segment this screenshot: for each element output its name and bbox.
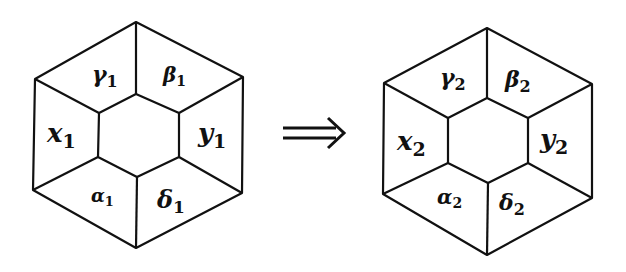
subscript: 1 [107,72,118,91]
subscript: 1 [176,73,186,89]
subscript: 1 [105,194,114,209]
region-label-delta: δ2 [498,189,525,219]
region-label-y: y1 [197,118,226,152]
subscript: 2 [452,195,462,211]
subscript: 1 [173,197,185,217]
subscript: 1 [213,130,226,152]
spoke-edge [528,163,592,198]
subscript: 2 [520,77,531,96]
region-label-alpha: α2 [437,185,462,211]
region-label-beta: β2 [504,66,531,96]
hexagon-transformation-diagram: γ1β1x1y1α1δ1 γ2β2x2y2α2δ2 [0,0,626,272]
symbol: β [162,63,176,87]
subscript: 2 [413,138,426,160]
symbol: x [396,126,413,156]
spoke-edge [33,157,98,190]
region-label-y: y2 [539,124,568,158]
spoke-edge [136,177,137,248]
arrow-head-icon [328,118,344,148]
spoke-edge [35,79,99,113]
subscript: 2 [514,200,525,219]
right-hexagon: γ2β2x2y2α2δ2 [383,28,592,255]
subscript: 1 [63,130,76,152]
subscript: 2 [455,75,466,94]
region-label-beta: β1 [162,63,186,89]
spoke-edge [487,183,488,255]
spoke-edge [384,83,448,118]
inner-hexagon [98,94,179,177]
subscript: 2 [555,136,568,158]
spoke-edge [528,84,592,118]
region-label-x: x1 [46,118,76,152]
region-label-gamma: γ1 [92,61,118,91]
inner-hexagon [448,98,528,183]
implies-arrow [283,118,344,148]
left-hexagon: γ1β1x1y1α1δ1 [33,22,243,248]
region-label-alpha: α1 [91,185,114,209]
region-label-gamma: γ2 [440,64,466,94]
symbol: δ [156,185,173,214]
region-label-delta: δ1 [156,185,185,217]
region-label-x: x2 [396,126,426,160]
symbol: δ [498,189,514,215]
symbol: x [46,118,63,148]
spoke-edge [179,77,243,113]
spoke-edge [179,157,242,193]
symbol: α [437,185,452,209]
symbol: β [504,66,520,92]
symbol: α [91,185,105,206]
